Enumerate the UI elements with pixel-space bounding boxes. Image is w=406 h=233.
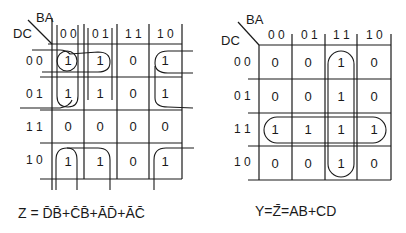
right-cell-r3-c1: 0 xyxy=(304,156,311,171)
right-cell-r2-c3: 1 xyxy=(370,122,377,137)
right-row-label-11: 1 1 xyxy=(234,122,251,136)
left-cell-r0-c3: 1 xyxy=(161,53,168,68)
left-cell-r0-c0: 1 xyxy=(64,53,71,68)
left-row-label-11: 1 1 xyxy=(26,120,43,134)
left-col-label-01: 0 1 xyxy=(92,27,109,41)
right-cell-r0-c0: 0 xyxy=(271,55,278,70)
left-group-col3-row3-wrap xyxy=(154,148,194,190)
left-row-label-10: 1 0 xyxy=(26,153,43,167)
left-cell-r1-c3: 1 xyxy=(161,86,168,101)
left-group-row1-bottom-wrap xyxy=(20,100,72,108)
right-cell-r0-c3: 0 xyxy=(370,55,377,70)
right-col-label-00: 0 0 xyxy=(268,28,285,42)
left-row-label-00: 0 0 xyxy=(26,54,43,68)
right-cell-r3-c0: 0 xyxy=(271,156,278,171)
left-cell-r3-c3: 1 xyxy=(161,154,168,169)
left-cell-r3-c2: 0 xyxy=(129,154,136,169)
left-karnaugh-map: BA DC 0 0 0 1 1 1 1 0 0 0 0 1 1 1 1 0 1 … xyxy=(13,10,194,221)
right-cell-r3-c2: 1 xyxy=(337,156,344,171)
left-col-label-10: 1 0 xyxy=(157,27,174,41)
right-cell-r1-c1: 0 xyxy=(304,89,311,104)
left-map-col-var: BA xyxy=(36,10,54,25)
left-cell-r2-c0: 0 xyxy=(64,119,71,134)
left-cell-r2-c3: 0 xyxy=(161,119,168,134)
left-cell-r3-c1: 1 xyxy=(96,154,103,169)
right-cell-r0-c2: 1 xyxy=(337,55,344,70)
right-cell-r0-c1: 0 xyxy=(304,55,311,70)
right-cell-r3-c3: 0 xyxy=(370,156,377,171)
left-row-label-01: 0 1 xyxy=(26,87,43,101)
right-cell-r2-c1: 1 xyxy=(304,122,311,137)
right-col-label-10: 1 0 xyxy=(366,28,383,42)
left-col-label-11: 1 1 xyxy=(125,27,142,41)
left-cell-r2-c1: 0 xyxy=(96,119,103,134)
left-cell-r2-c2: 0 xyxy=(129,119,136,134)
right-cell-r1-c0: 0 xyxy=(271,89,278,104)
left-cell-r1-c0: 1 xyxy=(64,86,71,101)
right-map-row-var: DC xyxy=(221,33,240,48)
right-cell-r1-c3: 0 xyxy=(370,89,377,104)
left-cell-r0-c1: 1 xyxy=(96,53,103,68)
left-map-equation: Z = D̄B̄+C̄B̄+ĀD̄+ĀC̄ xyxy=(18,205,145,221)
right-row-label-00: 0 0 xyxy=(234,55,251,69)
left-map-row-var: DC xyxy=(13,26,32,41)
right-col-label-11: 1 1 xyxy=(333,28,350,42)
right-map-col-var: BA xyxy=(246,12,264,27)
left-cell-r1-c2: 0 xyxy=(129,86,136,101)
left-cell-r3-c0: 1 xyxy=(64,154,71,169)
right-cell-r2-c2: 1 xyxy=(337,122,344,137)
left-cell-r1-c1: 1 xyxy=(96,86,103,101)
right-cell-r1-c2: 1 xyxy=(337,89,344,104)
left-col-label-00: 0 0 xyxy=(60,27,77,41)
right-map-equation: Y=Z̄=AB+CD xyxy=(255,203,336,219)
right-row-label-10: 1 0 xyxy=(234,155,251,169)
left-cell-r0-c2: 0 xyxy=(129,53,136,68)
right-col-label-01: 0 1 xyxy=(301,28,318,42)
right-cell-r2-c0: 1 xyxy=(271,122,278,137)
right-row-label-01: 0 1 xyxy=(234,89,251,103)
right-karnaugh-map: BA DC 0 0 0 1 1 1 1 0 0 0 0 1 1 1 1 0 0 … xyxy=(221,12,391,219)
karnaugh-maps-figure: BA DC 0 0 0 1 1 1 1 0 0 0 0 1 1 1 1 0 1 … xyxy=(0,0,406,233)
